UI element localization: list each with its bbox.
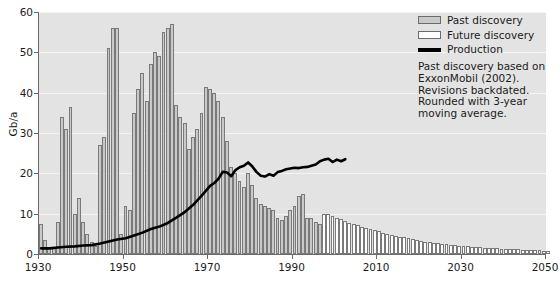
x-axis-tick-label: 2030 — [447, 261, 474, 273]
x-axis-tick-label: 2050 — [532, 261, 559, 273]
x-axis-tick-mark — [207, 255, 208, 259]
y-axis-tick-mark — [34, 52, 38, 53]
legend-swatch-production — [418, 48, 441, 52]
y-axis-tick-mark — [34, 12, 38, 13]
x-axis-tick-mark — [38, 255, 39, 259]
y-axis-tick-label: 10 — [4, 209, 33, 219]
y-axis-tick-label: 0 — [4, 249, 33, 259]
x-axis-tick-label: 1970 — [194, 261, 221, 273]
legend-swatch-future-discovery — [418, 31, 441, 39]
y-axis-tick-mark — [34, 254, 38, 255]
legend-item-production: Production — [418, 43, 534, 56]
x-axis-tick-mark — [461, 255, 462, 259]
annotation-line-5: moving average. — [418, 108, 548, 120]
y-axis-tick-label: 20 — [4, 168, 33, 178]
legend-swatch-past-discovery — [418, 16, 441, 24]
x-axis-tick-mark — [376, 255, 377, 259]
x-axis-tick-label: 2010 — [363, 261, 390, 273]
legend-label-production: Production — [447, 43, 503, 56]
y-axis-tick-label: 60 — [4, 7, 33, 17]
bar — [546, 251, 550, 254]
legend-label-future-discovery: Future discovery — [447, 29, 534, 42]
y-axis-tick-mark — [34, 214, 38, 215]
chart-root: 0102030405060 Gb/a 193019501970199020102… — [0, 0, 560, 291]
legend-item-future-discovery: Future discovery — [418, 29, 534, 42]
x-axis-tick-label: 1930 — [25, 261, 52, 273]
y-axis-label: Gb/a — [7, 94, 19, 154]
annotation-note: Past discovery based on ExxonMobil (2002… — [418, 61, 548, 120]
y-axis-tick-mark — [34, 173, 38, 174]
chart-legend: Past discovery Future discovery Producti… — [418, 14, 534, 58]
x-axis-tick-label: 1990 — [278, 261, 305, 273]
annotation-line-2: ExxonMobil (2002). — [418, 73, 548, 85]
legend-label-past-discovery: Past discovery — [447, 14, 523, 27]
x-axis-tick-mark — [123, 255, 124, 259]
x-axis-tick-mark — [545, 255, 546, 259]
y-axis-tick-mark — [34, 93, 38, 94]
x-axis-tick-label: 1950 — [109, 261, 136, 273]
y-axis-tick-label: 50 — [4, 47, 33, 57]
legend-item-past-discovery: Past discovery — [418, 14, 534, 27]
y-axis-tick-mark — [34, 133, 38, 134]
x-axis-tick-mark — [292, 255, 293, 259]
